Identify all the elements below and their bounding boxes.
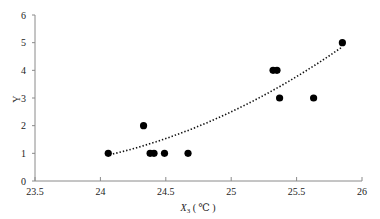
y-tick-label: 2 xyxy=(21,120,26,131)
y-tick-label: 6 xyxy=(21,10,26,21)
x-tick-label: 24 xyxy=(95,186,105,197)
data-point xyxy=(310,94,317,101)
x-tick-label: 24.5 xyxy=(157,186,175,197)
y-tick-label: 1 xyxy=(21,148,26,159)
y-axis-ticks: 0123456 xyxy=(21,10,35,187)
data-point xyxy=(276,94,283,101)
scatter-chart: 0123456 23.52424.52525.526 Y X3 ( ℃ ) xyxy=(0,0,380,219)
x-axis-title-unit: ( ℃ ) xyxy=(190,202,215,214)
data-points xyxy=(105,39,346,157)
data-point xyxy=(140,122,147,129)
y-tick-label: 4 xyxy=(21,65,26,76)
data-point xyxy=(161,150,168,157)
y-axis-title: Y xyxy=(11,95,22,102)
trendline xyxy=(110,47,343,155)
data-point xyxy=(150,150,157,157)
y-tick-label: 0 xyxy=(21,176,26,187)
x-tick-label: 25.5 xyxy=(288,186,306,197)
x-tick-label: 23.5 xyxy=(26,186,44,197)
data-point xyxy=(105,150,112,157)
data-point xyxy=(273,67,280,74)
x-axis-ticks: 23.52424.52525.526 xyxy=(26,177,367,197)
y-tick-label: 5 xyxy=(21,37,26,48)
data-point xyxy=(339,39,346,46)
x-axis-title: X3 ( ℃ ) xyxy=(180,202,216,215)
data-point xyxy=(184,150,191,157)
x-tick-label: 25 xyxy=(226,186,236,197)
x-tick-label: 26 xyxy=(357,186,367,197)
